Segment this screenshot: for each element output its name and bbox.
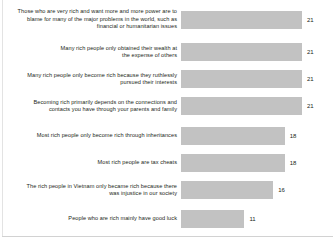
- bar-category-label: Many rich people only become rich becaus…: [0, 72, 181, 87]
- bar-fill: [181, 97, 302, 115]
- table-row: Most rich people are tax cheats 18: [0, 150, 335, 175]
- bar-category-label: Becoming rich primarily depends on the c…: [0, 99, 181, 114]
- bar-value-label: 21: [307, 76, 314, 82]
- bar-value-label: 11: [249, 216, 255, 222]
- bar-track: 21: [181, 66, 335, 92]
- bar-value-label: 21: [307, 17, 314, 23]
- bar-track: 18: [181, 150, 335, 175]
- bar-value-label: 21: [307, 49, 314, 55]
- bar-track: 21: [181, 93, 335, 119]
- bar-value-label: 16: [278, 187, 285, 193]
- bar-fill: [181, 181, 273, 199]
- bar-category-label: People who are rich mainly have good luc…: [0, 215, 181, 222]
- table-row: Becoming rich primarily depends on the c…: [0, 93, 335, 119]
- table-row: Those who are very rich and want more an…: [0, 5, 335, 34]
- bar-fill: [181, 11, 302, 29]
- bar-fill: [181, 127, 285, 145]
- bar-category-label: Most rich people are tax cheats: [0, 159, 181, 166]
- bar-fill: [181, 154, 285, 172]
- table-row: Many rich people only obtained their wea…: [0, 39, 335, 65]
- bar-fill: [181, 70, 302, 88]
- bar-track: 18: [181, 123, 335, 148]
- chart-bottom-rule: [2, 236, 333, 237]
- bar-fill: [181, 43, 302, 61]
- table-row: Most rich people only become rich throug…: [0, 123, 335, 148]
- bar-fill: [181, 210, 244, 228]
- bar-category-label: Those who are very rich and want more an…: [0, 8, 181, 30]
- bar-track: 21: [181, 39, 335, 65]
- table-row: Many rich people only become rich becaus…: [0, 66, 335, 92]
- bar-value-label: 18: [290, 133, 297, 139]
- bar-category-label: The rich people in Vietnam only became r…: [0, 183, 181, 198]
- bar-value-label: 21: [307, 103, 314, 109]
- table-row: People who are rich mainly have good luc…: [0, 206, 335, 231]
- table-row: The rich people in Vietnam only became r…: [0, 177, 335, 203]
- bar-track: 21: [181, 5, 335, 34]
- bar-track: 11: [181, 206, 335, 231]
- horizontal-bar-chart: Those who are very rich and want more an…: [0, 0, 335, 245]
- bar-track: 16: [181, 177, 335, 203]
- bar-value-label: 18: [290, 160, 297, 166]
- bar-category-label: Most rich people only become rich throug…: [0, 132, 181, 139]
- bar-category-label: Many rich people only obtained their wea…: [0, 45, 181, 60]
